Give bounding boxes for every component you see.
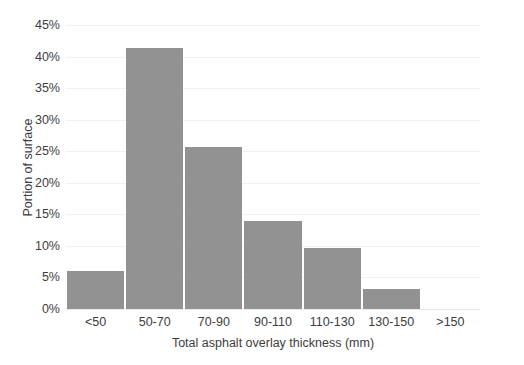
bar-slot [125,25,184,309]
bar-slot [362,25,421,309]
x-axis-tick-label: 130-150 [362,313,421,331]
x-axis-tick-label: 50-70 [125,313,184,331]
bar [244,221,301,309]
bar-slot [243,25,302,309]
x-axis-title: Total asphalt overlay thickness (mm) [66,336,480,350]
bar-slot [303,25,362,309]
bar-slot [184,25,243,309]
x-axis-tick-label: <50 [66,313,125,331]
y-axis-title: Portion of surface [18,25,38,310]
bar [185,147,242,309]
x-axis-tick-label: >150 [421,313,480,331]
x-axis-tick-label: 90-110 [243,313,302,331]
plot-area [66,25,480,309]
bar [126,48,183,309]
bar [363,289,420,309]
x-axis-tick-label: 110-130 [303,313,362,331]
gridline [66,309,480,310]
bar [67,271,124,309]
bar-series [66,25,480,309]
x-axis-tick-labels: <5050-7070-9090-110110-130130-150>150 [66,313,480,331]
bar [304,248,361,309]
chart-figure: Portion of surface 0%5%10%15%20%25%30%35… [0,0,524,365]
bar-slot [421,25,480,309]
bar-slot [66,25,125,309]
x-axis-tick-label: 70-90 [184,313,243,331]
